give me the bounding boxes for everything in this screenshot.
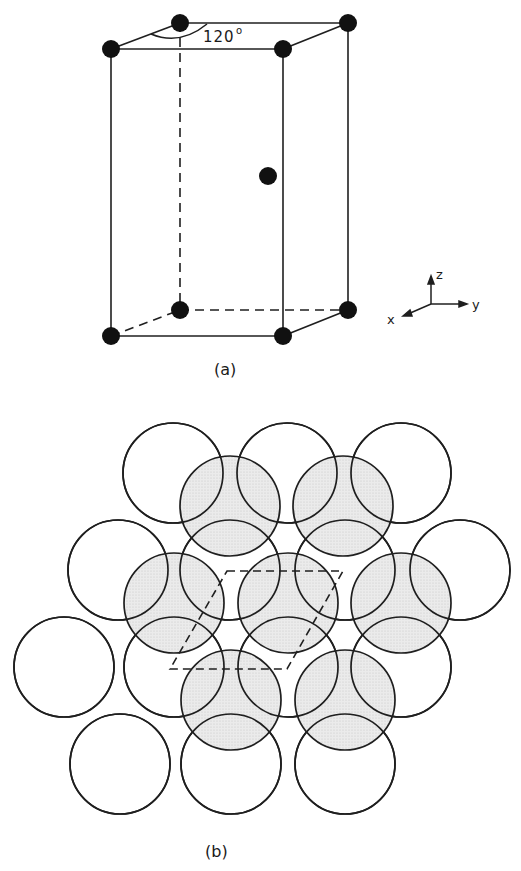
layer-b-circle [351, 553, 451, 653]
atom [339, 14, 357, 32]
degree-symbol: o [236, 25, 242, 36]
caption-b: (b) [205, 842, 228, 861]
atom [274, 327, 292, 345]
layer-b-circle [238, 553, 338, 653]
atom [339, 301, 357, 319]
layer-b-circle [181, 650, 281, 750]
atom [171, 14, 189, 32]
axes-indicator [403, 276, 467, 316]
atom [171, 301, 189, 319]
atoms [102, 14, 357, 345]
atom [274, 40, 292, 58]
axis-z-label: z [436, 267, 443, 282]
angle-label: 120 [203, 28, 235, 46]
axis-x-label: x [387, 312, 395, 327]
axis-y-label: y [472, 297, 480, 312]
hcp-figure: 120 o z y x (a) (b) [0, 0, 521, 871]
caption-a: (a) [214, 360, 236, 379]
layer-b-circle [180, 456, 280, 556]
atom [102, 327, 120, 345]
unit-cell-diagram [111, 23, 348, 336]
layer-b-circle [293, 456, 393, 556]
interior-atom [259, 167, 277, 185]
top-edge [111, 23, 180, 49]
hidden-bottom-edge [111, 310, 180, 336]
layer-b-circle [295, 650, 395, 750]
bottom-edge [283, 310, 348, 336]
top-edge [283, 23, 348, 49]
atom [102, 40, 120, 58]
